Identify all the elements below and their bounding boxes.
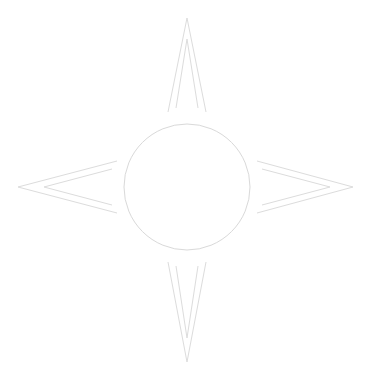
- west-arrow-inner-chevron: [44, 169, 112, 205]
- figure-canvas: [0, 0, 369, 380]
- west-arrow-outer-chevron: [18, 161, 117, 213]
- east-arrow-outer-chevron: [257, 161, 353, 213]
- north-arrow: [168, 18, 206, 112]
- north-arrow-outer-chevron: [168, 18, 206, 112]
- compass-move-glyph: [0, 0, 369, 380]
- north-arrow-inner-chevron: [176, 39, 198, 108]
- south-arrow: [168, 262, 206, 362]
- south-arrow-inner-chevron: [176, 266, 198, 338]
- center-circle: [124, 124, 250, 250]
- west-arrow: [18, 161, 117, 213]
- south-arrow-outer-chevron: [168, 262, 206, 362]
- east-arrow-inner-chevron: [262, 169, 330, 205]
- east-arrow: [257, 161, 353, 213]
